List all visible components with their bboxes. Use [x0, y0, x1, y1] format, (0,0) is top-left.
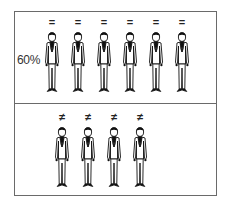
person-figure [129, 127, 151, 201]
man-in-suit-icon [103, 127, 125, 189]
not-equal-sign-icon: ≠ [51, 112, 73, 122]
man-in-suit-icon [51, 127, 73, 189]
person-figure [171, 32, 193, 106]
equal-sign-icon: = [145, 17, 167, 27]
equal-sign-icon: = [41, 17, 63, 27]
equal-sign-icon: = [93, 17, 115, 27]
equal-sign-icon: = [119, 17, 141, 27]
man-in-suit-icon [119, 32, 141, 94]
person-figure [93, 32, 115, 106]
person-figure [103, 127, 125, 201]
equal-sign-icon: = [171, 17, 193, 27]
man-in-suit-icon [41, 32, 63, 94]
percentage-label: 60% [17, 53, 40, 67]
not-equal-sign-icon: ≠ [129, 112, 151, 122]
man-in-suit-icon [77, 127, 99, 189]
equal-sign-icon: = [67, 17, 89, 27]
man-in-suit-icon [93, 32, 115, 94]
person-figure [51, 127, 73, 201]
person-figure [119, 32, 141, 106]
not-equal-sign-icon: ≠ [77, 112, 99, 122]
person-figure [77, 127, 99, 201]
man-in-suit-icon [171, 32, 193, 94]
man-in-suit-icon [67, 32, 89, 94]
person-figure [41, 32, 63, 106]
man-in-suit-icon [145, 32, 167, 94]
person-figure [145, 32, 167, 106]
person-figure [67, 32, 89, 106]
not-equal-sign-icon: ≠ [103, 112, 125, 122]
man-in-suit-icon [129, 127, 151, 189]
